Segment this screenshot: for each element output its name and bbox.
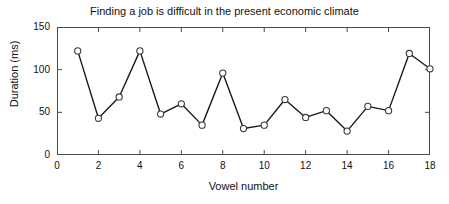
data-point: [385, 108, 391, 114]
data-point: [406, 50, 412, 56]
x-tick-label: 8: [211, 160, 235, 171]
data-point: [220, 70, 226, 76]
data-point: [240, 125, 246, 131]
chart-figure: Finding a job is difficult in the presen…: [0, 0, 449, 204]
y-tick-label: 100: [10, 64, 50, 75]
x-tick-label: 6: [169, 160, 193, 171]
data-point: [116, 94, 122, 100]
data-point: [137, 48, 143, 54]
data-point: [178, 101, 184, 107]
data-point: [323, 108, 329, 114]
y-tick-label: 0: [10, 149, 50, 160]
x-tick-label: 4: [128, 160, 152, 171]
axis-ticks: [57, 27, 430, 155]
data-point: [199, 122, 205, 128]
x-tick-label: 2: [86, 160, 110, 171]
x-tick-label: 10: [252, 160, 276, 171]
x-tick-label: 14: [335, 160, 359, 171]
data-point: [303, 114, 309, 120]
data-point: [365, 103, 371, 109]
data-point: [282, 96, 288, 102]
data-point-markers: [75, 48, 433, 134]
chart-canvas: [0, 0, 449, 204]
data-point: [427, 66, 433, 72]
data-series-line: [78, 51, 430, 131]
x-tick-label: 16: [377, 160, 401, 171]
x-tick-label: 18: [418, 160, 442, 171]
y-tick-label: 150: [10, 21, 50, 32]
data-point: [158, 111, 164, 117]
x-tick-label: 12: [294, 160, 318, 171]
y-tick-label: 50: [10, 106, 50, 117]
data-point: [95, 115, 101, 121]
data-point: [344, 128, 350, 134]
x-tick-label: 0: [45, 160, 69, 171]
data-point: [75, 48, 81, 54]
data-point: [261, 122, 267, 128]
